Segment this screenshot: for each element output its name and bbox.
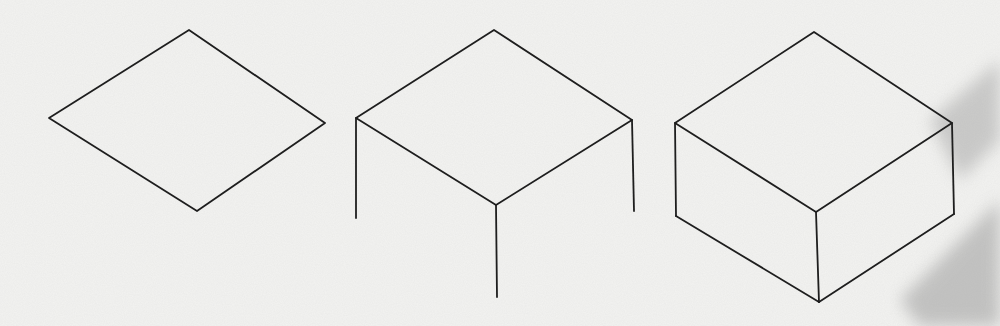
sketch-drawing [0,0,1000,326]
paper-texture [0,0,1000,326]
sketch-canvas [0,0,1000,326]
front-vertical-edge [496,205,497,297]
